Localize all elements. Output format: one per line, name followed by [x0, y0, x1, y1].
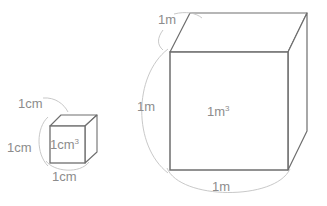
small-cube-top-edge-label: 1cm [18, 97, 43, 110]
small-cube-volume-exponent: 3 [75, 137, 79, 146]
small-cube-volume-value: 1cm [50, 137, 75, 152]
small-cube-left-edge-label: 1cm [7, 141, 32, 154]
cube-comparison-figure [0, 0, 327, 206]
large-cube-volume-exponent: 3 [225, 104, 229, 113]
large-cube-top-leader-curl [159, 30, 164, 50]
large-cube-top-edge-label: 1m [158, 13, 176, 26]
small-cube-top-leader [43, 98, 68, 112]
large-cube-group [170, 13, 307, 170]
large-cube-volume-label: 1m3 [207, 105, 230, 118]
small-cube-volume-label: 1cm3 [50, 138, 79, 151]
large-cube-volume-value: 1m [207, 104, 225, 119]
large-cube-bottom-edge-label: 1m [212, 180, 230, 193]
large-cube-top-face [170, 13, 307, 52]
small-cube-bottom-edge-label: 1cm [52, 170, 77, 183]
small-cube-left-leader [39, 117, 48, 166]
large-cube-left-edge-label: 1m [137, 100, 155, 113]
